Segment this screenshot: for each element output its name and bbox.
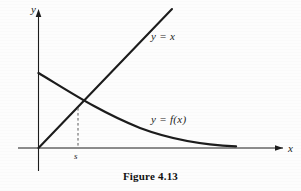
x-axis [18, 145, 283, 151]
y-axis-label: y [31, 4, 36, 15]
x-axis-arrowhead [275, 145, 283, 151]
figure-plot [0, 0, 301, 191]
x-axis-label: x [288, 143, 293, 154]
figure-container: y x y = x y = f(x) s Figure 4.13 [0, 0, 301, 191]
figure-caption: Figure 4.13 [0, 170, 301, 182]
function-curve-label: y = f(x) [151, 114, 186, 125]
x-axis-tick-label-s: s [74, 152, 78, 161]
function-curve [39, 73, 237, 146]
identity-line-label: y = x [151, 31, 175, 42]
y-axis-arrowhead [36, 9, 42, 17]
